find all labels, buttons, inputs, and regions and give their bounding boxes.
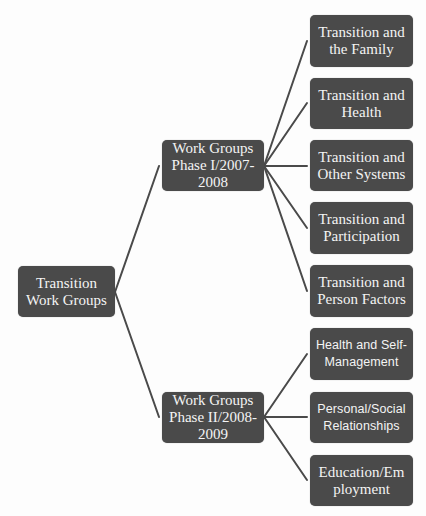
node-transition-family: Transition and the Family (310, 15, 413, 67)
connector-phase1-person-factors (264, 166, 307, 291)
connector-phase1-family (264, 41, 307, 166)
diagram-canvas: Transition Work Groups Work Groups Phase… (0, 0, 426, 516)
node-label: Transition Work Groups (26, 275, 107, 309)
connector-phase1-participation (264, 166, 307, 228)
node-personal-social-relationships: Personal/Social Relationships (310, 392, 413, 443)
node-phase2: Work Groups Phase II/2008- 2009 (162, 392, 264, 443)
node-label: Work Groups Phase I/2007- 2008 (172, 140, 255, 191)
node-transition-other-systems: Transition and Other Systems (310, 140, 413, 191)
node-label: Transition and Other Systems (318, 149, 406, 183)
node-label: Transition and Participation (318, 211, 405, 245)
node-label: Education/Em ployment (319, 464, 405, 498)
node-transition-person-factors: Transition and Person Factors (310, 265, 413, 317)
node-phase1: Work Groups Phase I/2007- 2008 (162, 140, 264, 191)
node-label: Transition and Person Factors (317, 274, 406, 308)
node-education-employment: Education/Em ployment (310, 455, 413, 506)
node-transition-health: Transition and Health (310, 78, 413, 129)
node-label: Transition and the Family (318, 24, 405, 58)
connector-phase1-health (264, 103, 307, 166)
node-transition-participation: Transition and Participation (310, 202, 413, 254)
connector-phase2-health-self (264, 354, 307, 417)
connector-root-phase1 (115, 166, 159, 292)
node-root-transition-work-groups: Transition Work Groups (18, 266, 115, 317)
connector-root-phase2 (115, 292, 159, 417)
node-label: Transition and Health (318, 87, 405, 121)
node-health-self-management: Health and Self- Management (310, 328, 413, 380)
connector-phase2-education (264, 417, 307, 480)
node-label: Work Groups Phase II/2008- 2009 (169, 392, 257, 443)
node-label: Health and Self- Management (316, 337, 407, 371)
node-label: Personal/Social Relationships (317, 401, 405, 435)
